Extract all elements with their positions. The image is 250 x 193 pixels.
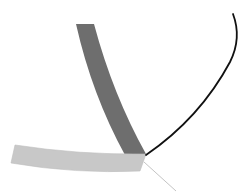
dark-curved-band: [76, 24, 146, 155]
black-arc-curve: [146, 14, 237, 155]
diagram-canvas: [0, 0, 250, 193]
thin-gray-line: [144, 162, 176, 191]
